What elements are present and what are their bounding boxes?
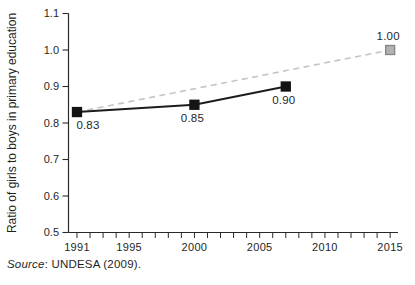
data-point-label: 0.90 — [272, 94, 295, 106]
chart-svg: 0.50.60.70.80.91.01.11991199520002005201… — [0, 0, 415, 285]
source-label: Source — [7, 258, 45, 270]
y-axis-title: Ratio of girls to boys in primary educat… — [5, 13, 19, 233]
data-point-marker — [72, 108, 81, 117]
y-tick-label: 0.9 — [44, 80, 59, 92]
data-point-label: 1.00 — [377, 30, 400, 42]
series-line-observed-ratio — [77, 87, 286, 113]
data-point-marker — [281, 82, 290, 91]
data-point-marker — [190, 100, 199, 109]
y-tick-label: 1.1 — [44, 7, 59, 19]
x-tick-label: 1995 — [116, 241, 142, 253]
chart-container: 0.50.60.70.80.91.01.11991199520002005201… — [0, 0, 415, 285]
data-point-label: 0.83 — [76, 119, 99, 131]
y-tick-label: 0.7 — [44, 153, 59, 165]
series-line-projection-to-target — [77, 50, 390, 112]
x-tick-label: 2005 — [247, 241, 273, 253]
source-text: Source: UNDESA (2009). — [7, 258, 141, 270]
x-tick-label: 2010 — [312, 241, 338, 253]
data-point-marker — [386, 46, 395, 55]
data-point-label: 0.85 — [181, 112, 204, 124]
y-tick-label: 1.0 — [44, 44, 59, 56]
y-tick-label: 0.6 — [44, 190, 59, 202]
source-rest: : UNDESA (2009). — [45, 258, 142, 270]
x-tick-label: 2015 — [377, 241, 403, 253]
x-tick-label: 1991 — [64, 241, 90, 253]
y-tick-label: 0.8 — [44, 117, 59, 129]
x-tick-label: 2000 — [182, 241, 208, 253]
y-tick-label: 0.5 — [44, 226, 59, 238]
